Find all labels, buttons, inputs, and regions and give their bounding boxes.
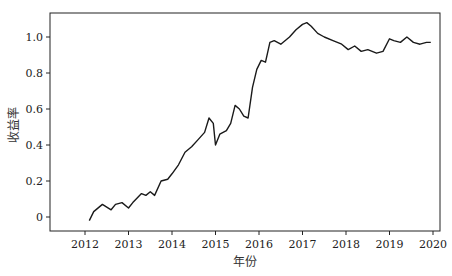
- x-tick-label: 2018: [332, 238, 360, 251]
- x-tick-label: 2015: [202, 238, 230, 251]
- x-tick-label: 2017: [289, 238, 317, 251]
- y-axis: 00.20.40.60.81.0: [26, 31, 51, 224]
- x-axis-title: 年份: [233, 255, 257, 269]
- y-tick-label: 0.6: [26, 103, 44, 116]
- line-chart: 201220132014201520162017201820192020 00.…: [0, 0, 452, 276]
- y-axis-title: 收益率: [6, 107, 21, 143]
- y-tick-label: 0.2: [26, 175, 44, 188]
- y-tick-label: 0.8: [26, 67, 44, 80]
- x-tick-label: 2012: [71, 238, 99, 251]
- plot-frame: [50, 13, 440, 231]
- x-tick-label: 2014: [158, 238, 186, 251]
- x-tick-label: 2016: [245, 238, 273, 251]
- x-tick-label: 2019: [376, 238, 404, 251]
- x-tick-label: 2013: [115, 238, 143, 251]
- x-axis: 201220132014201520162017201820192020: [71, 231, 447, 251]
- y-tick-label: 0.4: [26, 139, 44, 152]
- y-tick-label: 1.0: [26, 31, 44, 44]
- x-tick-label: 2020: [419, 238, 447, 251]
- y-tick-label: 0: [36, 211, 43, 224]
- series-line: [89, 23, 431, 221]
